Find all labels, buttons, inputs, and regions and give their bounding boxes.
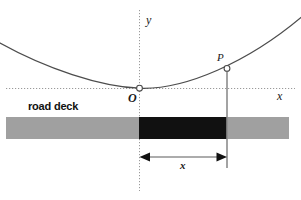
curve-helper [0, 29, 140, 88]
point-p-marker [224, 66, 230, 72]
dimension-arrow-head-right [217, 153, 228, 162]
curve-helper-2 [0, 18, 301, 90]
road-deck-label: road deck [28, 101, 78, 112]
road-deck-span-black [139, 117, 227, 139]
cable-parabola-curve [0, 18, 301, 89]
bridge-parabola-figure: y x O P x road deck [0, 0, 301, 200]
y-axis-label: y [146, 14, 151, 26]
x-axis-label: x [277, 90, 282, 102]
dimension-label: x [180, 160, 186, 171]
point-p-label: P [217, 52, 224, 63]
origin-marker [137, 85, 143, 91]
dimension-arrow-head-left [140, 153, 151, 162]
origin-label: O [128, 92, 137, 104]
